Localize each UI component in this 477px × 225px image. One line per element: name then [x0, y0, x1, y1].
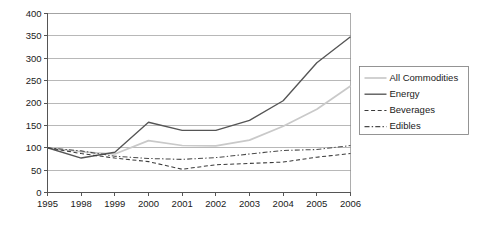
- legend-label: Edibles: [390, 120, 421, 131]
- y-axis-tick-label: 150: [26, 120, 42, 131]
- series-line-all-commodities: [48, 86, 351, 154]
- y-axis-ticks: 050100150200250300350400: [26, 8, 48, 198]
- gridlines: [48, 14, 351, 171]
- x-axis-ticks: 1995199819992000200120022003200420052006: [37, 193, 361, 210]
- y-axis-tick-label: 200: [26, 97, 42, 108]
- x-axis-tick-label: 1999: [104, 198, 125, 209]
- y-axis-tick-label: 0: [36, 187, 41, 198]
- x-axis-tick-label: 2004: [273, 198, 294, 209]
- x-axis-tick-label: 2005: [306, 198, 327, 209]
- x-axis-tick-label: 2000: [138, 198, 159, 209]
- legend-label: Beverages: [390, 104, 436, 115]
- chart-canvas: 050100150200250300350400 199519981999200…: [0, 0, 477, 225]
- y-axis-tick-label: 350: [26, 30, 42, 41]
- series-line-energy: [48, 37, 351, 158]
- x-axis-tick-label: 2003: [239, 198, 260, 209]
- x-axis-tick-label: 1998: [71, 198, 92, 209]
- x-axis-tick-label: 2002: [205, 198, 226, 209]
- legend-label: Energy: [390, 88, 420, 99]
- y-axis-tick-label: 50: [31, 165, 42, 176]
- legend-label: All Commodities: [390, 72, 459, 83]
- y-axis-tick-label: 400: [26, 8, 42, 19]
- x-axis-tick-label: 2006: [340, 198, 361, 209]
- chart-legend: All CommoditiesEnergyBeveragesEdibles: [360, 67, 469, 135]
- x-axis-tick-label: 1995: [37, 198, 58, 209]
- line-chart: 050100150200250300350400 199519981999200…: [0, 0, 477, 225]
- y-axis-tick-label: 100: [26, 142, 42, 153]
- y-axis-tick-label: 250: [26, 75, 42, 86]
- y-axis-tick-label: 300: [26, 53, 42, 64]
- x-axis-tick-label: 2001: [172, 198, 193, 209]
